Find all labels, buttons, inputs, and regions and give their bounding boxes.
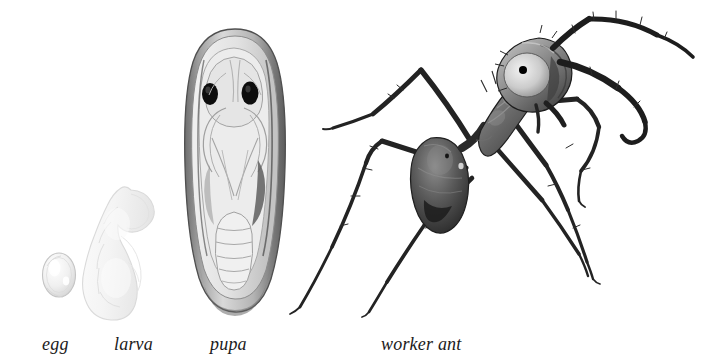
stage-label-egg: egg	[42, 334, 69, 355]
ant-pupa-icon	[185, 29, 286, 316]
stage-label-pupa: pupa	[210, 334, 247, 355]
stage-label-worker-ant: worker ant	[381, 334, 462, 355]
ant-life-cycle-figure: egg larva pupa worker ant	[0, 0, 703, 362]
pupa-eye-left	[202, 83, 218, 105]
ant-eye	[504, 53, 550, 97]
stage-label-larva: larva	[114, 334, 153, 355]
ant-egg-icon	[43, 253, 76, 297]
life-cycle-illustration	[0, 0, 703, 362]
ant-pupil	[519, 66, 527, 74]
